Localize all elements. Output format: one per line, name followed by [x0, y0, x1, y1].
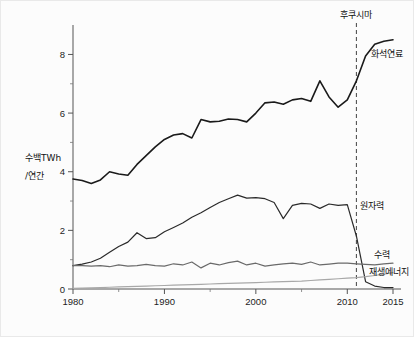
series-label-수력: 수력 — [374, 249, 390, 260]
series-line-0 — [73, 40, 393, 184]
fukushima-annotation-label: 후쿠시마 — [340, 10, 373, 20]
y-tick-label: 4 — [60, 166, 65, 177]
y-tick-label: 0 — [60, 284, 65, 295]
y-tick-label: 6 — [60, 108, 65, 119]
y-axis-title-line2: /연간 — [25, 171, 44, 181]
x-tick-label: 2015 — [382, 296, 403, 307]
chart-figure: 0246819801990200020102015수백TWh/연간후쿠시마화석연… — [0, 0, 414, 337]
series-line-2 — [73, 261, 393, 268]
y-axis-title-line1: 수백TWh — [25, 153, 61, 163]
y-tick-label: 2 — [60, 225, 65, 236]
series-label-원자력: 원자력 — [360, 200, 384, 211]
y-tick-label: 8 — [60, 49, 65, 60]
x-tick-label: 2000 — [245, 296, 266, 307]
series-label-화석연료: 화석연료 — [371, 49, 403, 59]
series-label-재생에너지: 재생에너지 — [369, 267, 409, 277]
x-tick-label: 1990 — [154, 296, 175, 307]
series-line-3 — [73, 273, 393, 289]
x-tick-label: 2010 — [337, 296, 358, 307]
energy-line-chart: 0246819801990200020102015수백TWh/연간후쿠시마화석연… — [1, 1, 414, 337]
series-line-1 — [73, 195, 393, 287]
x-tick-label: 1980 — [62, 296, 83, 307]
